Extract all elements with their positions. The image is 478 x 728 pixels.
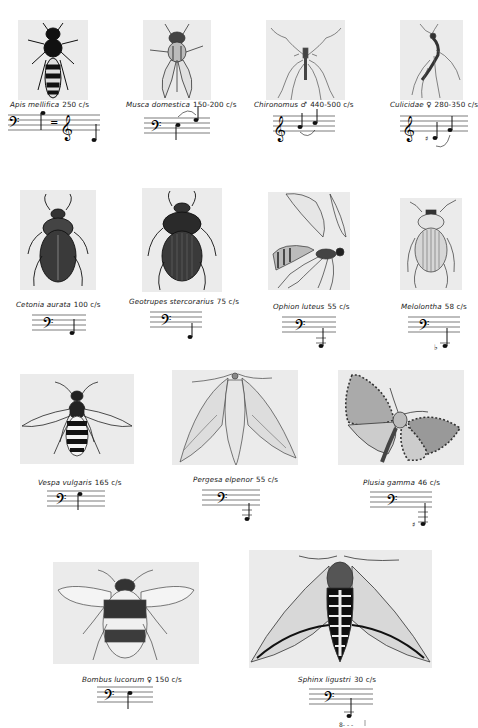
- caption-musca-domestica: Musca domestica150-200 c/s: [126, 100, 237, 109]
- svg-text:𝄢: 𝄢: [8, 113, 20, 134]
- staff-geotrupes-stercorarius: 𝄢: [150, 307, 202, 352]
- illustration-privet-hawk-moth: [249, 550, 432, 668]
- staff-chironomus: 𝄞: [273, 110, 335, 150]
- staff-vespa-vulgaris: 𝄢: [47, 488, 105, 528]
- svg-text:𝄢: 𝄢: [160, 311, 172, 332]
- svg-text:𝄢: 𝄢: [55, 490, 67, 511]
- caption-apis-mellifica: Apis mellifica250 c/s: [10, 100, 89, 109]
- svg-text:𝄢: 𝄢: [294, 316, 306, 337]
- svg-text:𝄞: 𝄞: [402, 116, 415, 142]
- caption-ophion-luteus: Ophion luteus55 c/s: [273, 302, 350, 311]
- staff-musca-domestica: 𝄢: [144, 110, 210, 150]
- svg-text:𝄞: 𝄞: [60, 115, 73, 141]
- illustration-elephant-hawk-moth: [172, 370, 298, 465]
- illustration-mosquito: [400, 20, 463, 100]
- staff-pergesa-elpenor: 𝄢: [202, 485, 260, 535]
- staff-sphinx-ligustri: 𝄢 8- - -: [309, 685, 373, 728]
- staff-bombus-lucorum: 𝄢: [97, 683, 153, 723]
- illustration-house-fly: [143, 20, 211, 100]
- illustration-ichneumon-wasp: [268, 192, 350, 290]
- svg-text:𝄢: 𝄢: [42, 314, 54, 335]
- illustration-cockchafer: [400, 198, 462, 290]
- caption-pergesa-elpenor: Pergesa elpenor55 c/s: [193, 475, 278, 484]
- svg-text:𝄢: 𝄢: [150, 117, 162, 138]
- illustration-rose-chafer: [20, 190, 96, 290]
- illustration-honey-bee: [18, 20, 88, 100]
- svg-text:𝄢: 𝄢: [103, 686, 115, 707]
- svg-text:♯: ♯: [425, 135, 428, 143]
- caption-melolontha: Melolontha58 c/s: [401, 302, 467, 311]
- caption-culicidae: Culicidae ♀280-350 c/s: [390, 100, 478, 109]
- svg-text:𝄢: 𝄢: [386, 491, 398, 512]
- svg-text:♭: ♭: [434, 343, 438, 352]
- illustration-dung-beetle: [142, 188, 222, 292]
- svg-text:𝄢: 𝄢: [323, 688, 335, 709]
- caption-geotrupes-stercorarius: Geotrupes stercorarius75 c/s: [129, 297, 239, 306]
- svg-text:♯: ♯: [412, 521, 415, 529]
- svg-text:=: =: [50, 117, 58, 128]
- illustration-common-wasp: [20, 374, 134, 464]
- staff-plusia-gamma: 𝄢 ♯: [370, 487, 432, 537]
- octave-marking: 8- - -: [339, 721, 353, 728]
- staff-ophion-luteus: 𝄢: [282, 312, 336, 362]
- illustration-silver-y-moth: [338, 370, 464, 465]
- svg-text:𝄞: 𝄞: [273, 116, 286, 142]
- caption-plusia-gamma: Plusia gamma46 c/s: [363, 478, 440, 487]
- staff-apis-mellifica: 𝄢 = 𝄞: [8, 110, 100, 150]
- caption-chironomus: Chironomus ♂440-500 c/s: [254, 100, 354, 109]
- staff-culicidae: 𝄞 ♯: [400, 110, 468, 155]
- caption-cetonia-aurata: Cetonia aurata100 c/s: [16, 300, 101, 309]
- svg-text:𝄢: 𝄢: [216, 489, 228, 510]
- illustration-bumblebee: [53, 562, 199, 664]
- illustration-midge: [266, 20, 345, 100]
- caption-vespa-vulgaris: Vespa vulgaris165 c/s: [38, 478, 122, 487]
- caption-sphinx-ligustri: Sphinx ligustri30 c/s: [298, 675, 376, 684]
- svg-text:𝄢: 𝄢: [418, 316, 430, 337]
- staff-melolontha: 𝄢 ♭: [408, 312, 460, 362]
- staff-cetonia-aurata: 𝄢: [32, 310, 86, 350]
